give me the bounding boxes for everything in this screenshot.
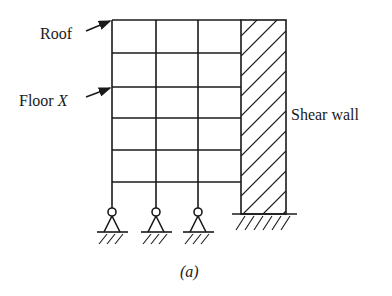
figure-caption: (a) <box>180 263 199 281</box>
pinned-support-2 <box>141 208 172 244</box>
fixed-support <box>232 214 297 230</box>
floor-variable: X <box>57 92 69 109</box>
floor-beams <box>112 20 241 182</box>
shear-wall-label: Shear wall <box>291 106 360 123</box>
frame-columns <box>112 20 198 208</box>
floor-x-label: Floor X <box>19 92 69 109</box>
roof-arrow-icon <box>86 21 110 31</box>
floor-label-text: Floor <box>19 92 58 109</box>
roof-label: Roof <box>40 25 73 42</box>
pinned-support-1 <box>97 208 128 244</box>
floor-arrow-icon <box>86 88 110 97</box>
pinned-support-3 <box>183 208 214 244</box>
shear-wall <box>241 0 286 256</box>
frame-diagram: Roof Floor X Shear wall (a) <box>0 0 392 296</box>
